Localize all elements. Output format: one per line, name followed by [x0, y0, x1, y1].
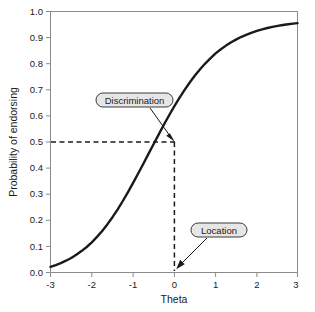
y-tick-label-3: 0.3: [30, 188, 43, 199]
chart-background: [0, 0, 315, 312]
y-tick-label-0: 0.0: [30, 267, 43, 278]
y-tick-label-4: 0.4: [30, 162, 43, 173]
y-tick-label-10: 1.0: [30, 6, 43, 17]
y-tick-label-8: 0.8: [30, 58, 43, 69]
x-tick-label-0: -3: [46, 279, 54, 290]
y-axis-title: Probability of endorsing: [7, 87, 19, 197]
x-tick-label-5: 2: [254, 279, 259, 290]
x-tick-label-1: -2: [88, 279, 96, 290]
x-tick-label-6: 3: [293, 279, 298, 290]
item-characteristic-curve-chart: 0.0 0.1 0.2 0.3 0.4 0.5 0.6 0.7 0.8 0.9 …: [0, 0, 315, 312]
chart-figure: 0.0 0.1 0.2 0.3 0.4 0.5 0.6 0.7 0.8 0.9 …: [0, 0, 315, 312]
y-tick-label-2: 0.2: [30, 214, 43, 225]
y-tick-label-1: 0.1: [30, 241, 43, 252]
x-axis-title: Theta: [161, 293, 188, 305]
y-tick-label-6: 0.6: [30, 110, 43, 121]
y-tick-label-5: 0.5: [30, 136, 43, 147]
y-tick-label-7: 0.7: [30, 84, 43, 95]
discrimination-callout-label: Discrimination: [105, 95, 165, 106]
location-callout-label: Location: [201, 225, 237, 236]
x-tick-label-3: 0: [172, 279, 177, 290]
y-tick-label-9: 0.9: [30, 32, 43, 43]
x-tick-label-4: 1: [213, 279, 218, 290]
x-tick-label-2: -1: [129, 279, 137, 290]
